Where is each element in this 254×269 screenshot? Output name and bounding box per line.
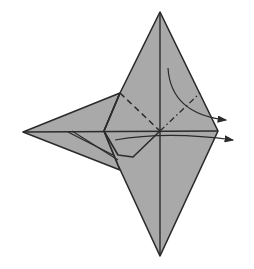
origami-diagram xyxy=(0,0,254,269)
horizontal-crease xyxy=(23,131,218,132)
main-diamond xyxy=(104,12,218,256)
